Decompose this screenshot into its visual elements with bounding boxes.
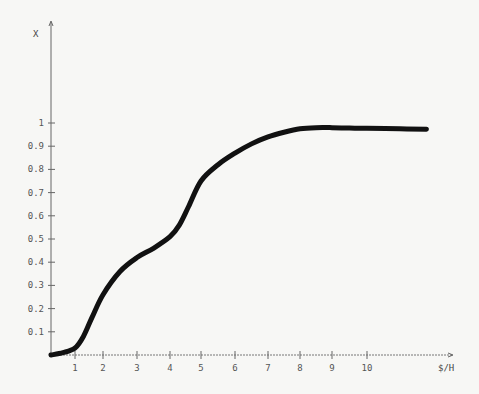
y-tick-label: 0.5: [28, 234, 44, 244]
x-axis: $/H 12345678910: [51, 351, 454, 373]
y-tick-label: 0.2: [28, 304, 44, 314]
y-tick-label: 0.9: [28, 141, 44, 151]
chart: X 0.10.20.30.40.50.60.70.80.91 $/H 12345…: [0, 0, 479, 394]
y-tick-label: 0.8: [28, 164, 44, 174]
y-tick-label: 0.4: [28, 257, 44, 267]
x-tick-label: 9: [329, 363, 334, 373]
y-axis-title: X: [33, 29, 39, 39]
y-tick-label: 1: [39, 118, 44, 128]
x-tick-label: 2: [100, 363, 105, 373]
data-curve: [51, 128, 426, 355]
x-axis-title: $/H: [438, 363, 454, 373]
x-tick-label: 7: [265, 363, 270, 373]
y-tick-label: 0.3: [28, 280, 44, 290]
y-tick-label: 0.7: [28, 188, 44, 198]
y-axis: X 0.10.20.30.40.50.60.70.80.91: [28, 21, 55, 356]
y-tick-label: 0.1: [28, 327, 44, 337]
x-tick-label: 1: [72, 363, 77, 373]
x-tick-label: 8: [297, 363, 302, 373]
x-tick-label: 3: [134, 363, 139, 373]
x-tick-label: 4: [167, 363, 172, 373]
x-tick-label: 5: [198, 363, 203, 373]
x-tick-label: 10: [362, 363, 373, 373]
y-tick-label: 0.6: [28, 211, 44, 221]
x-tick-label: 6: [232, 363, 237, 373]
